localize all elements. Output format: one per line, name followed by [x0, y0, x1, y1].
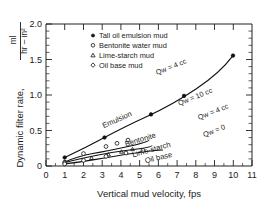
legend-item-tall-oil-emulsion-mud: Tall oil emulsion mud [91, 31, 167, 40]
y-tick-label: 1.0 [29, 90, 42, 100]
legend-item-bentonite-water-mud: Bentonite water mud [91, 41, 167, 50]
x-tick-label: 6 [156, 170, 161, 180]
legend-item-lime-starch-mud: Lime-starch mud [91, 51, 154, 60]
x-tick-label: 3 [100, 170, 105, 180]
x-tick-label: 11 [247, 170, 256, 180]
y-axis-unit-denominator: hr – in² [20, 28, 29, 54]
dynamic-filter-rate-chart: 0 1 2 3 4 5 6 7 8 9 10 11 0 0.5 1.0 1.5 … [0, 0, 270, 210]
y-tick-label: 0 [37, 161, 42, 171]
y-axis-title: Dynamic filter rate, [14, 88, 25, 167]
legend-item-oil-base-mud: Oil base mud [91, 61, 143, 70]
chart-figure: 0 1 2 3 4 5 6 7 8 9 10 11 0 0.5 1.0 1.5 … [0, 0, 270, 210]
x-tick-label: 1 [62, 170, 67, 180]
y-tick-label: 1.5 [29, 55, 42, 65]
x-tick-label: 10 [228, 170, 238, 180]
x-tick-label: 0 [43, 170, 48, 180]
x-axis-title: Vertical mud velocity, fps [97, 188, 201, 199]
y-tick-label: 2.0 [29, 19, 42, 29]
x-tick-label: 8 [193, 170, 198, 180]
y-axis-unit-numerator: ml [9, 36, 18, 45]
legend-label: Lime-starch mud [99, 51, 154, 60]
legend-marker-open-circle-icon [91, 44, 95, 48]
legend-label: Oil base mud [99, 61, 143, 70]
legend-label: Tall oil emulsion mud [99, 31, 168, 40]
x-tick-label: 9 [212, 170, 217, 180]
x-tick-label: 7 [175, 170, 180, 180]
y-tick-label: 0.5 [29, 126, 42, 136]
x-tick-label: 2 [81, 170, 86, 180]
legend-marker-filled-circle-icon [91, 34, 94, 37]
x-tick-label: 5 [137, 170, 142, 180]
legend-label: Bentonite water mud [99, 41, 167, 50]
x-tick-label: 4 [118, 170, 123, 180]
